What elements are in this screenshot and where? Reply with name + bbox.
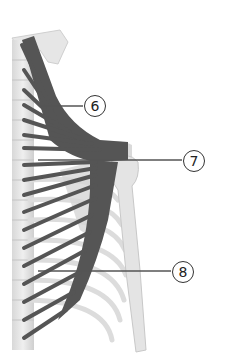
- humerus: [111, 155, 146, 352]
- skeleton-muscle-drawing: [0, 0, 232, 362]
- label-8: 8: [172, 261, 194, 283]
- label-6: 6: [84, 95, 106, 117]
- anatomy-illustration: 6 7 8: [0, 0, 232, 362]
- label-7: 7: [183, 150, 205, 172]
